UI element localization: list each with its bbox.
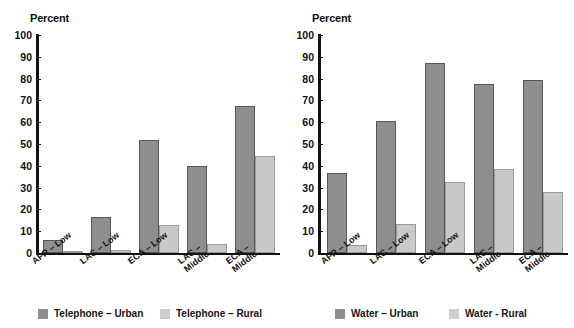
y-tick-label: 90 — [20, 51, 32, 63]
y-tick-label: 10 — [302, 225, 314, 237]
y-tick-label: 70 — [302, 94, 314, 106]
y-tick-label: 20 — [302, 203, 314, 215]
y-axis-tick-labels: 100 90 80 70 60 50 40 30 20 10 0 — [6, 35, 32, 253]
y-tick-label: 80 — [302, 73, 314, 85]
y-tick-label: 50 — [20, 138, 32, 150]
y-tick-label: 60 — [302, 116, 314, 128]
y-tick-label: 50 — [302, 138, 314, 150]
bar-group — [43, 35, 87, 253]
bar-group — [425, 35, 469, 253]
two-panel-bar-chart-figure: Percent 100 90 80 70 60 50 40 30 20 10 0 — [0, 0, 574, 328]
legend-item-telephone-rural: Telephone – Rural — [160, 308, 262, 319]
y-tick-label: 100 — [14, 29, 32, 41]
bar-water-urban-eca-middle[interactable] — [523, 80, 543, 253]
y-tick-label: 20 — [20, 203, 32, 215]
bar-water-urban-eca-low[interactable] — [425, 63, 445, 253]
bar-group — [474, 35, 518, 253]
y-tick-label: 30 — [20, 182, 32, 194]
y-tick-label: 0 — [308, 247, 314, 259]
legend-swatch-urban-icon — [335, 309, 345, 319]
legend-item-water-urban: Water – Urban — [335, 308, 418, 319]
plot-area-water — [321, 35, 567, 253]
legend-label-water-urban: Water – Urban — [351, 308, 418, 319]
bar-group — [327, 35, 371, 253]
chart-panel-telephone: Percent 100 90 80 70 60 50 40 30 20 10 0 — [0, 0, 287, 328]
bar-group — [376, 35, 420, 253]
bar-telephone-urban-eca-middle[interactable] — [235, 106, 255, 253]
y-tick-label: 30 — [302, 182, 314, 194]
bar-group — [139, 35, 183, 253]
plot-area-telephone — [39, 35, 279, 253]
y-axis-title: Percent — [312, 12, 351, 24]
chart-panel-water: Percent 100 90 80 70 60 50 40 30 20 10 0 — [287, 0, 574, 328]
bar-group — [523, 35, 567, 253]
y-axis-title: Percent — [30, 12, 69, 24]
bar-group — [187, 35, 231, 253]
legend-swatch-urban-icon — [38, 309, 48, 319]
bar-group — [91, 35, 135, 253]
bar-water-urban-lac-middle[interactable] — [474, 84, 494, 253]
y-tick-label: 80 — [20, 73, 32, 85]
y-tick-label: 90 — [302, 51, 314, 63]
legend-swatch-rural-icon — [160, 309, 170, 319]
y-tick-label: 40 — [302, 160, 314, 172]
bar-water-urban-lac-low[interactable] — [376, 121, 396, 253]
bar-group — [235, 35, 279, 253]
y-tick-label: 100 — [296, 29, 314, 41]
y-tick-label: 70 — [20, 94, 32, 106]
legend-label-water-rural: Water - Rural — [465, 308, 527, 319]
y-axis-tick-labels: 100 90 80 70 60 50 40 30 20 10 0 — [288, 35, 314, 253]
legend-swatch-rural-icon — [449, 309, 459, 319]
legend-item-water-rural: Water - Rural — [449, 308, 527, 319]
legend-label-telephone-urban: Telephone – Urban — [54, 308, 143, 319]
y-tick-label: 10 — [20, 225, 32, 237]
y-tick-label: 40 — [20, 160, 32, 172]
legend-item-telephone-urban: Telephone – Urban — [38, 308, 143, 319]
legend-label-telephone-rural: Telephone – Rural — [176, 308, 262, 319]
y-tick-label: 60 — [20, 116, 32, 128]
